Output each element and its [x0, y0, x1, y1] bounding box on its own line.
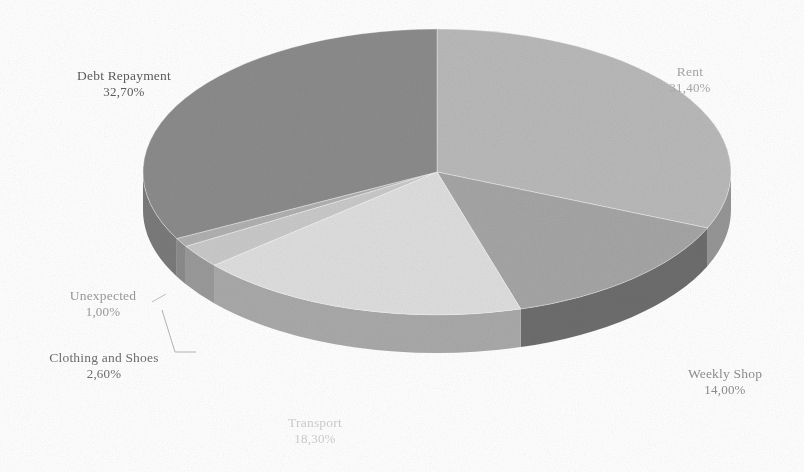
slice-label-transport: Transport 18,30% — [250, 415, 380, 446]
slice-label-weekly-shop-value: 14,00% — [655, 382, 795, 397]
slice-label-rent-value: 31,40% — [630, 80, 750, 95]
slice-label-unexpected: Unexpected 1,00% — [38, 288, 168, 319]
slice-label-weekly-shop-name: Weekly Shop — [655, 366, 795, 382]
slice-label-unexpected-name: Unexpected — [38, 288, 168, 304]
slice-label-rent: Rent 31,40% — [630, 64, 750, 95]
slice-label-transport-value: 18,30% — [250, 431, 380, 446]
slice-label-debt-repayment-name: Debt Repayment — [44, 68, 204, 84]
slice-label-debt-repayment: Debt Repayment 32,70% — [44, 68, 204, 99]
slice-label-rent-name: Rent — [630, 64, 750, 80]
slice-label-clothing-and-shoes-name: Clothing and Shoes — [14, 350, 194, 366]
pie-chart: Debt Repayment 32,70% Rent 31,40% Weekly… — [0, 0, 804, 472]
slice-label-debt-repayment-value: 32,70% — [44, 84, 204, 99]
slice-label-clothing-and-shoes-value: 2,60% — [14, 366, 194, 381]
slice-label-unexpected-value: 1,00% — [38, 304, 168, 319]
slice-label-weekly-shop: Weekly Shop 14,00% — [655, 366, 795, 397]
slice-label-clothing-and-shoes: Clothing and Shoes 2,60% — [14, 350, 194, 381]
slice-label-transport-name: Transport — [250, 415, 380, 431]
